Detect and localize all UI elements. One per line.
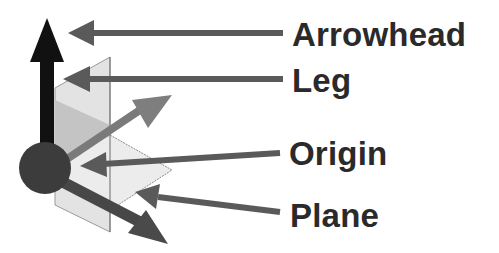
label-arrowhead: Arrowhead	[292, 18, 466, 51]
label-origin: Origin	[289, 137, 387, 170]
arrowhead-callout	[68, 20, 283, 46]
label-leg: Leg	[292, 64, 351, 97]
origin-sphere	[19, 142, 71, 194]
label-plane: Plane	[290, 199, 379, 232]
vertical-arrowhead-icon	[30, 18, 64, 62]
plane-callout	[135, 184, 280, 212]
arrowhead-callout-icon	[68, 20, 94, 46]
